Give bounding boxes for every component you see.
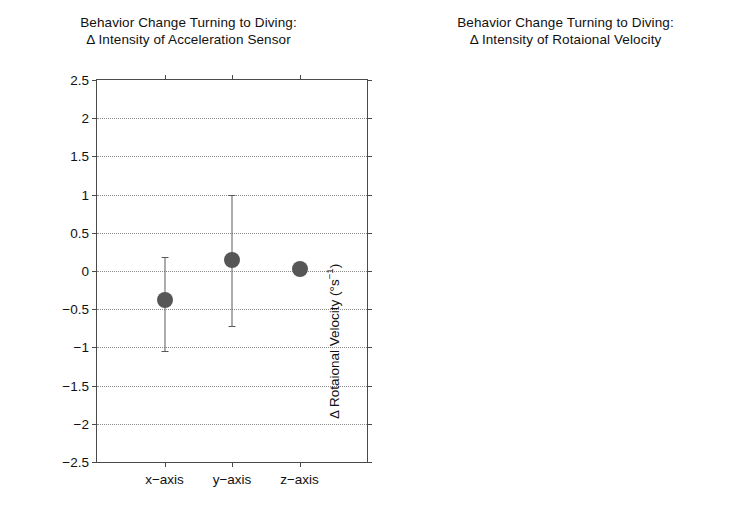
- x-axis-tick-top: [165, 75, 166, 80]
- y-axis-tick-label: −1.5: [62, 378, 89, 393]
- y-axis-tick-right: [367, 195, 372, 196]
- x-axis-tick-label: y−axis: [213, 472, 252, 487]
- data-point: [292, 261, 308, 277]
- y-axis-tick-right: [367, 309, 372, 310]
- y-axis-tick: [92, 156, 97, 157]
- y-axis-tick-right: [367, 462, 372, 463]
- y-axis-tick-label: 1.5: [70, 149, 89, 164]
- y-axis-tick: [92, 233, 97, 234]
- left-title-line1: Behavior Change Turning to Diving:: [80, 15, 297, 30]
- y-axis-tick: [92, 309, 97, 310]
- y-axis-tick: [92, 386, 97, 387]
- y-axis-tick: [92, 347, 97, 348]
- panel-acceleration: Behavior Change Turning to Diving: Δ Int…: [0, 0, 377, 528]
- y-axis-tick-right: [367, 118, 372, 119]
- y-axis-tick-right: [367, 424, 372, 425]
- y-axis-tick-label: 1: [81, 187, 89, 202]
- x-axis-tick-top: [232, 75, 233, 80]
- data-point: [157, 292, 173, 308]
- y-axis-tick-label: 2: [81, 111, 89, 126]
- x-axis-tick-label: z−axis: [280, 472, 319, 487]
- x-axis-tick: [232, 462, 233, 467]
- gridline: [97, 156, 367, 157]
- figure-root: Behavior Change Turning to Diving: Δ Int…: [0, 0, 754, 528]
- gridline: [97, 118, 367, 119]
- gridline: [97, 424, 367, 425]
- y-axis-tick: [92, 424, 97, 425]
- y-axis-tick-right: [367, 80, 372, 81]
- y-axis-tick-right: [367, 156, 372, 157]
- error-bar-cap: [161, 351, 168, 352]
- y-axis-tick-label: 0: [81, 264, 89, 279]
- y-axis-tick-label: 2.5: [70, 73, 89, 88]
- right-y-axis-title-main: Δ Rotaional Velocity (°s: [327, 279, 342, 419]
- y-axis-tick: [92, 271, 97, 272]
- error-bar-cap: [161, 257, 168, 258]
- left-title-line2: Δ Intensity of Acceleration Sensor: [0, 31, 377, 48]
- y-axis-tick-label: −1: [74, 340, 89, 355]
- x-axis-tick: [300, 462, 301, 467]
- y-axis-tick-label: −0.5: [62, 302, 89, 317]
- panel-rotational-velocity: Behavior Change Turning to Diving: Δ Int…: [377, 0, 754, 528]
- right-y-axis-title-text: Δ Rotaional Velocity (°s−1): [324, 264, 342, 419]
- y-axis-tick-right: [367, 347, 372, 348]
- x-axis-tick-top: [300, 75, 301, 80]
- x-axis-tick: [165, 462, 166, 467]
- y-axis-tick-label: 0.5: [70, 225, 89, 240]
- error-bar-cap: [229, 195, 236, 196]
- right-chart-title: Behavior Change Turning to Diving: Δ Int…: [377, 14, 754, 48]
- y-axis-tick: [92, 195, 97, 196]
- y-axis-tick: [92, 118, 97, 119]
- x-axis-tick-label: x−axis: [145, 472, 184, 487]
- left-chart-title: Behavior Change Turning to Diving: Δ Int…: [0, 14, 377, 48]
- y-axis-tick-label: −2.5: [62, 455, 89, 470]
- right-y-axis-title-close: ): [327, 264, 342, 269]
- right-y-axis-title-exponent: −1: [324, 268, 335, 279]
- y-axis-tick: [92, 80, 97, 81]
- y-axis-tick-right: [367, 233, 372, 234]
- right-title-line2: Δ Intensity of Rotaional Velocity: [377, 31, 754, 48]
- y-axis-tick-right: [367, 386, 372, 387]
- right-title-line1: Behavior Change Turning to Diving:: [457, 15, 674, 30]
- error-bar-cap: [229, 326, 236, 327]
- y-axis-tick-label: −2: [74, 416, 89, 431]
- data-point: [224, 252, 240, 268]
- y-axis-tick: [92, 462, 97, 463]
- y-axis-tick-right: [367, 271, 372, 272]
